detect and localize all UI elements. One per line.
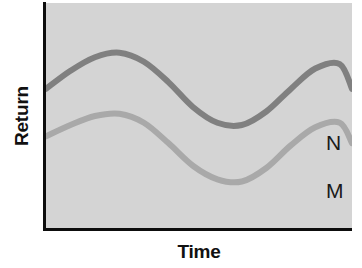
- x-axis-label-text: Time: [177, 241, 220, 263]
- series-label-n: N: [326, 132, 341, 153]
- series-label-m: M: [326, 180, 344, 201]
- plot-svg: [46, 3, 352, 229]
- series-line-m: [46, 113, 352, 182]
- series-path-group: [46, 53, 352, 183]
- y-axis-label-text: Return: [11, 86, 33, 146]
- return-vs-time-line-chart: Return Time N M: [0, 0, 362, 268]
- plot-area: [46, 3, 352, 229]
- x-axis-line: [43, 228, 352, 231]
- y-axis-label: Return: [0, 0, 44, 232]
- x-axis-label: Time: [44, 236, 354, 268]
